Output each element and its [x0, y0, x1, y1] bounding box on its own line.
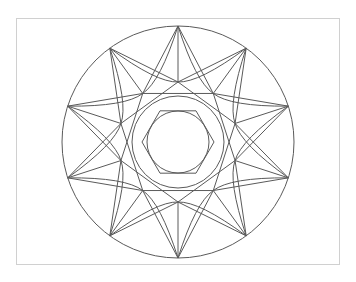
star-edge [235, 161, 246, 236]
s-curve [68, 48, 123, 178]
star-edge [110, 202, 178, 236]
center-ring [132, 96, 224, 188]
star-edge [235, 48, 246, 123]
radial-line [213, 191, 246, 236]
star-edge [178, 191, 213, 258]
star-edge [178, 202, 246, 236]
star-edge [143, 26, 178, 93]
star-edge [178, 48, 246, 82]
radial-line [110, 48, 143, 93]
star-edge [110, 161, 121, 236]
radial-line [213, 48, 246, 93]
inner-chord [213, 93, 235, 160]
ring-inner-circle [147, 111, 209, 173]
inner-chord [121, 123, 143, 190]
inner-chord [178, 161, 235, 202]
s-curve [68, 106, 123, 236]
s-curve [233, 48, 288, 178]
inner-chord [178, 82, 235, 123]
center-hexagon [142, 111, 214, 173]
radial-line [110, 191, 143, 236]
inner-chord [213, 123, 235, 190]
s-curve [233, 106, 288, 236]
star-edge [110, 48, 178, 82]
inner-chord [121, 93, 143, 160]
ring-outer-circle [132, 96, 224, 188]
geometric-star-diagram [0, 0, 356, 282]
radial-lines [68, 26, 289, 258]
star-edge [178, 26, 213, 93]
inner-star-chords [121, 82, 235, 202]
star-edge [143, 191, 178, 258]
star-edge [110, 48, 121, 123]
inner-chord [121, 161, 178, 202]
hexagon-shape [142, 111, 214, 173]
inner-chord [121, 82, 178, 123]
